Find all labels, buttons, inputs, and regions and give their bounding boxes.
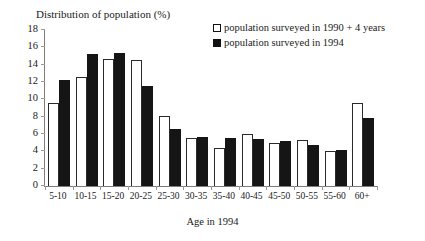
x-tick-label: 5-10	[44, 191, 72, 201]
y-tick-label: 18	[28, 23, 39, 34]
y-axis-title: Distribution of population (%)	[36, 8, 170, 20]
bar-group	[128, 30, 156, 186]
bar-group	[73, 30, 101, 186]
y-tick-label: 10	[28, 92, 39, 103]
x-tick-mark	[211, 186, 212, 190]
bar-hollow	[103, 59, 114, 186]
bar-hollow	[159, 116, 170, 186]
x-tick-label: 40-45	[238, 191, 266, 201]
bar-hollow	[186, 138, 197, 186]
x-tick-label: 55-60	[321, 191, 349, 201]
bar-group	[239, 30, 267, 186]
x-tick-mark	[239, 186, 240, 190]
x-tick-mark	[100, 186, 101, 190]
bar-filled	[114, 53, 125, 186]
bar-groups	[45, 30, 377, 186]
bar-chart: Distribution of population (%) populatio…	[0, 0, 425, 241]
x-axis-title: Age in 1994	[0, 216, 425, 227]
x-tick-mark	[322, 186, 323, 190]
x-tick-label: 50-55	[293, 191, 321, 201]
bar-filled	[87, 54, 98, 186]
bar-hollow	[131, 60, 142, 186]
x-tick-mark	[128, 186, 129, 190]
y-tick-label: 16	[28, 40, 39, 51]
bar-group	[211, 30, 239, 186]
bar-group	[322, 30, 350, 186]
bar-hollow	[269, 143, 280, 186]
x-tick-label: 20-25	[127, 191, 155, 201]
bar-hollow	[242, 134, 253, 186]
bar-hollow	[325, 151, 336, 186]
x-tick-mark	[183, 186, 184, 190]
bar-group	[266, 30, 294, 186]
bar-filled	[225, 138, 236, 186]
y-tick-label: 0	[33, 179, 38, 190]
bar-group	[294, 30, 322, 186]
bar-hollow	[352, 103, 363, 186]
y-tick-label: 6	[33, 127, 38, 138]
y-tick-label: 8	[33, 110, 38, 121]
bar-filled	[363, 118, 374, 186]
x-tick-mark	[377, 186, 378, 190]
bar-filled	[59, 80, 70, 186]
x-tick-mark	[349, 186, 350, 190]
plot-area: 024681012141618	[44, 30, 377, 187]
y-tick-label: 2	[33, 162, 38, 173]
x-tick-label: 30-35	[182, 191, 210, 201]
y-tick-label: 4	[33, 144, 38, 155]
x-tick-mark	[45, 186, 46, 190]
bar-hollow	[76, 77, 87, 186]
bar-filled	[253, 139, 264, 186]
x-tick-label: 35-40	[210, 191, 238, 201]
bar-filled	[336, 150, 347, 186]
bar-hollow	[297, 140, 308, 186]
bar-filled	[280, 141, 291, 186]
bar-hollow	[48, 103, 59, 186]
bar-filled	[142, 86, 153, 186]
x-tick-label: 45-50	[265, 191, 293, 201]
x-tick-mark	[294, 186, 295, 190]
bar-filled	[197, 137, 208, 186]
x-tick-label: 25-30	[155, 191, 183, 201]
bar-filled	[308, 145, 319, 186]
y-tick-label: 12	[28, 75, 39, 86]
bar-filled	[170, 129, 181, 186]
x-tick-mark	[73, 186, 74, 190]
x-axis-labels: 5-1010-1515-2020-2525-3030-3535-4040-454…	[44, 191, 376, 201]
x-tick-label: 10-15	[72, 191, 100, 201]
bar-group	[183, 30, 211, 186]
bar-group	[100, 30, 128, 186]
y-tick-label: 14	[28, 58, 39, 69]
bar-group	[349, 30, 377, 186]
x-tick-mark	[156, 186, 157, 190]
bar-hollow	[214, 148, 225, 186]
x-tick-mark	[266, 186, 267, 190]
x-tick-label: 60+	[348, 191, 376, 201]
bar-group	[45, 30, 73, 186]
x-tick-label: 15-20	[99, 191, 127, 201]
bar-group	[156, 30, 184, 186]
